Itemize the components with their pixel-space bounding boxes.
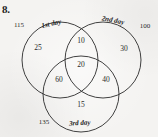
circle-label-third-day: 3rd day [69, 120, 91, 128]
region-value-first-only: 25 [34, 44, 42, 52]
region-value-first-third: 60 [55, 76, 63, 84]
region-value-first-second: 10 [77, 37, 85, 45]
outside-total-second-day: 100 [140, 23, 151, 30]
circle-first-day [22, 22, 98, 98]
region-value-second-only: 30 [120, 45, 128, 53]
outside-total-first-day: 115 [14, 22, 24, 29]
region-value-all-three: 20 [77, 61, 85, 69]
region-value-third-only: 15 [77, 101, 85, 109]
problem-number: 8. [2, 3, 10, 15]
region-value-second-third: 40 [102, 76, 110, 84]
venn-diagram-figure: 8. 1st day 2nd day 3rd day 115 100 135 2… [0, 0, 158, 137]
outside-total-third-day: 135 [39, 119, 50, 126]
